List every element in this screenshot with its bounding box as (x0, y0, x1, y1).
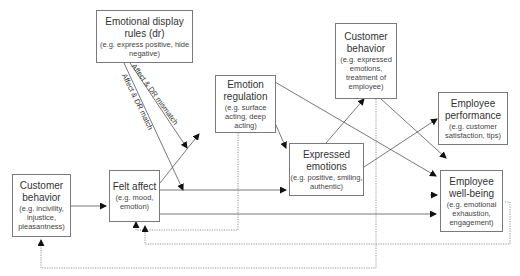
node-subtitle: (e.g. customer satisfaction, tips) (439, 122, 507, 140)
node-title: Emotional display rules (dr) (97, 16, 192, 40)
node-employee-performance: Employee performance (e.g. customer sati… (438, 92, 508, 145)
node-expressed-emotions: Expressed emotions (e.g. positive, smili… (289, 143, 364, 196)
node-subtitle: (e.g. expressed emotions, treatment of e… (336, 55, 396, 91)
node-title: Felt affect (113, 181, 157, 193)
node-title: Employee well-being (441, 176, 502, 200)
node-subtitle: (e.g. express positive, hide negative) (97, 40, 192, 58)
node-subtitle: (e.g. incivility, injustice, pleasantnes… (13, 204, 70, 231)
node-title: Emotion regulation (216, 79, 275, 103)
node-title: Employee performance (439, 98, 507, 122)
node-customer-behavior-left: Customer behavior (e.g. incivility, inju… (12, 174, 71, 237)
node-felt-affect: Felt affect (e.g. mood, emotion) (109, 170, 160, 222)
node-customer-behavior-top: Customer behavior (e.g. expressed emotio… (335, 23, 397, 99)
node-subtitle: (e.g. mood, emotion) (110, 193, 159, 211)
node-subtitle: (e.g. surface acting, deep acting) (216, 103, 275, 130)
node-title: Customer behavior (336, 31, 396, 55)
node-title: Customer behavior (13, 180, 70, 204)
node-subtitle: (e.g. positive, smiling, authentic) (290, 173, 363, 191)
node-emotion-regulation: Emotion regulation (e.g. surface acting,… (215, 75, 276, 133)
node-display-rules: Emotional display rules (dr) (e.g. expre… (96, 10, 193, 63)
node-title: Expressed emotions (290, 149, 363, 173)
node-employee-wellbeing: Employee well-being (e.g. emotional exha… (440, 170, 503, 232)
node-subtitle: (e.g. emotional exhaustion, engagement) (441, 200, 502, 227)
